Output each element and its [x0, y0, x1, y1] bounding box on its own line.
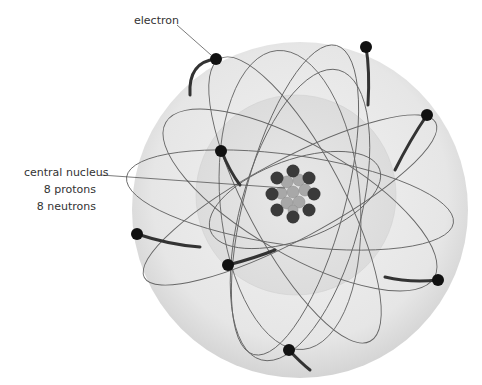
neutrons-label: 8 neutrons [24, 201, 96, 212]
electron-7 [432, 274, 444, 286]
electron-4 [421, 109, 433, 121]
nucleus [266, 165, 321, 224]
electron-5 [131, 228, 143, 240]
electron-2 [215, 145, 227, 157]
electron-6 [222, 259, 234, 271]
electron-label: electron [134, 15, 179, 26]
protons-label: 8 protons [24, 184, 96, 195]
electron-8 [283, 344, 295, 356]
electron-1 [210, 53, 222, 65]
electron-3 [360, 41, 372, 53]
nucleus-label: central nucleus [24, 167, 96, 178]
electron-leader-line [177, 25, 211, 55]
